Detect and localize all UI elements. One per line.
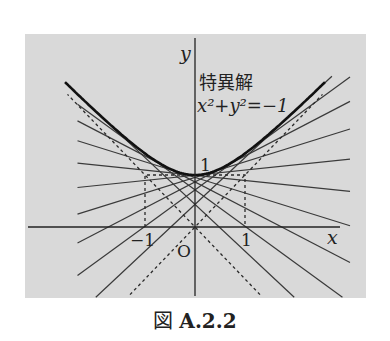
annotation-equation: x²+y²=−1	[197, 95, 288, 116]
tick-x-pos: 1	[241, 230, 252, 250]
x-axis-label: x	[327, 226, 338, 248]
caption-prefix: 図	[153, 309, 173, 333]
origin-label: O	[177, 241, 191, 261]
tick-x-neg: −1	[130, 230, 155, 250]
asymptote-line	[130, 94, 323, 294]
tangent-line	[78, 104, 343, 297]
y-axis-label: y	[179, 42, 191, 64]
annotation-title: 特異解	[199, 72, 253, 93]
caption-number: A.2.2	[179, 309, 236, 333]
tick-y-pos: 1	[200, 155, 211, 175]
hyperbola-diagram: y x O −1 1 1 特異解 x²+y²=−1	[0, 0, 390, 341]
figure-caption: 図A.2.2	[0, 305, 390, 334]
asymptote-line	[68, 94, 261, 294]
